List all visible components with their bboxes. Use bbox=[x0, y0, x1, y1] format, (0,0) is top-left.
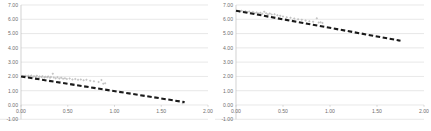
svg-text:0.00: 0.00 bbox=[231, 108, 241, 114]
svg-text:0.00: 0.00 bbox=[223, 102, 233, 108]
svg-text:0.50: 0.50 bbox=[63, 108, 73, 114]
svg-text:1.50: 1.50 bbox=[156, 108, 166, 114]
svg-text:-1.00: -1.00 bbox=[221, 116, 233, 122]
svg-text:2.00: 2.00 bbox=[203, 108, 213, 114]
left-chart: 7.006.005.004.003.002.001.000.00-1.000.0… bbox=[0, 0, 215, 131]
screenshot-root: 7.006.005.004.003.002.001.000.00-1.000.0… bbox=[0, 0, 431, 131]
svg-text:2.00: 2.00 bbox=[419, 108, 429, 114]
svg-text:1.00: 1.00 bbox=[110, 108, 120, 114]
svg-text:1.00: 1.00 bbox=[223, 88, 233, 94]
svg-text:6.00: 6.00 bbox=[223, 16, 233, 22]
svg-text:3.00: 3.00 bbox=[8, 59, 18, 65]
right-chart: 7.006.005.004.003.002.001.000.00-1.000.0… bbox=[215, 0, 431, 131]
svg-text:0.00: 0.00 bbox=[8, 102, 18, 108]
svg-text:7.00: 7.00 bbox=[8, 2, 18, 8]
left-chart-canvas: 7.006.005.004.003.002.001.000.00-1.000.0… bbox=[0, 0, 215, 131]
svg-text:1.00: 1.00 bbox=[8, 88, 18, 94]
svg-text:0.50: 0.50 bbox=[278, 108, 288, 114]
svg-text:5.00: 5.00 bbox=[8, 30, 18, 36]
svg-text:3.00: 3.00 bbox=[223, 59, 233, 65]
svg-text:6.00: 6.00 bbox=[8, 16, 18, 22]
svg-text:0.00: 0.00 bbox=[16, 108, 26, 114]
svg-text:1.00: 1.00 bbox=[325, 108, 335, 114]
right-chart-canvas: 7.006.005.004.003.002.001.000.00-1.000.0… bbox=[215, 0, 431, 131]
svg-text:-1.00: -1.00 bbox=[6, 116, 18, 122]
right-chart-svg: 7.006.005.004.003.002.001.000.00-1.000.0… bbox=[215, 0, 431, 131]
svg-text:2.00: 2.00 bbox=[223, 73, 233, 79]
svg-text:1.50: 1.50 bbox=[372, 108, 382, 114]
svg-text:2.00: 2.00 bbox=[8, 73, 18, 79]
svg-text:7.00: 7.00 bbox=[223, 2, 233, 8]
svg-text:4.00: 4.00 bbox=[8, 45, 18, 51]
left-chart-svg: 7.006.005.004.003.002.001.000.00-1.000.0… bbox=[0, 0, 215, 131]
svg-text:5.00: 5.00 bbox=[223, 30, 233, 36]
svg-text:4.00: 4.00 bbox=[223, 45, 233, 51]
